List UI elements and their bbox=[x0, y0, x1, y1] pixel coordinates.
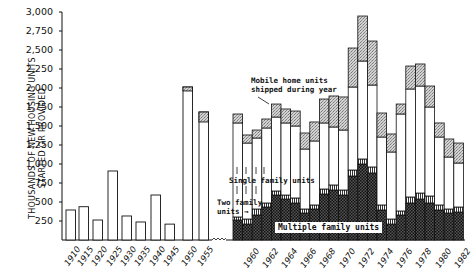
annotation-single-family: Single family units bbox=[229, 176, 315, 185]
annotation-multiple-family: Multiple family units bbox=[278, 223, 379, 232]
annotation-two-line1: Two family bbox=[217, 198, 262, 207]
annotation-two-family: Two family units → bbox=[217, 198, 262, 216]
annotation-two-line2: units → bbox=[217, 207, 262, 216]
